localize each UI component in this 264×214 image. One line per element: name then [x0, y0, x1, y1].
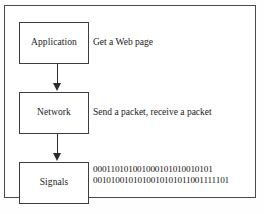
layer-box-signals: Signals	[19, 162, 89, 204]
arrow-shaft	[57, 64, 58, 85]
arrow-head-down-icon	[53, 153, 61, 161]
layer-description-application: Get a Web page	[93, 37, 153, 48]
layer-label-signals: Signals	[40, 178, 69, 188]
arrow-shaft	[57, 134, 58, 155]
network-layers-figure: Application Network Signals Get a Web pa…	[0, 0, 264, 214]
arrow-head-down-icon	[53, 83, 61, 91]
arrow-application-to-network	[52, 64, 63, 92]
signals-bit-line-1: 000110101001000101010010101	[93, 164, 229, 175]
signals-bit-line-2: 0010100101010010101011001111101	[93, 175, 229, 186]
layer-box-application: Application	[19, 22, 89, 64]
layer-label-network: Network	[37, 108, 71, 118]
arrow-network-to-signals	[52, 134, 63, 162]
layer-description-signals: 000110101001000101010010101 001010010101…	[93, 164, 229, 186]
layer-label-application: Application	[31, 38, 77, 48]
layer-box-network: Network	[19, 92, 89, 134]
layer-description-network: Send a packet, receive a packet	[93, 107, 212, 118]
figure-frame: Application Network Signals Get a Web pa…	[4, 5, 256, 198]
